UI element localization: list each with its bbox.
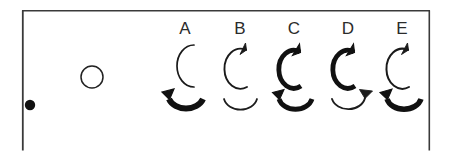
column-label-e: E bbox=[396, 19, 407, 38]
answer-options-figure: A B C bbox=[0, 0, 453, 156]
column-label-a: A bbox=[179, 19, 191, 38]
column-label-d: D bbox=[342, 19, 354, 38]
filled-dot-icon bbox=[25, 100, 35, 110]
column-label-b: B bbox=[234, 19, 245, 38]
column-label-c: C bbox=[288, 19, 300, 38]
figure-canvas: A B C bbox=[0, 0, 453, 156]
